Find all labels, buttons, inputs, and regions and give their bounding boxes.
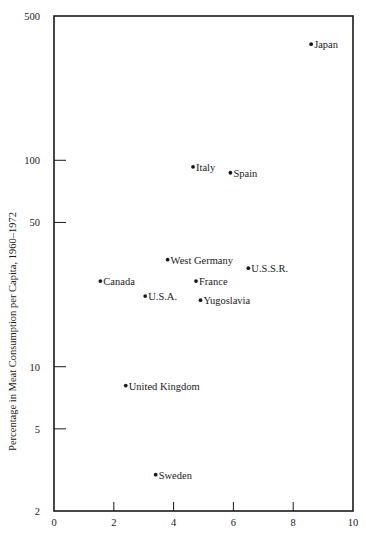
point-label: Sweden: [159, 470, 193, 481]
data-point: [191, 165, 195, 169]
x-tick-label: 2: [111, 517, 116, 528]
x-tick-label: 6: [231, 517, 236, 528]
data-point: [194, 279, 198, 283]
y-tick-label: 5: [35, 424, 40, 435]
point-label: U.S.A.: [148, 291, 177, 302]
point-label: West Germany: [171, 255, 234, 266]
point-label: Japan: [314, 39, 339, 50]
point-label: France: [199, 276, 228, 287]
x-tick-label: 4: [171, 517, 177, 528]
x-tick-label: 10: [348, 517, 359, 528]
point-label: Canada: [103, 276, 135, 287]
point-label: U.S.S.R.: [251, 263, 288, 274]
point-label: Yugoslavia: [204, 295, 251, 306]
scatter-plot: 0246810251050100500JapanItalySpainWest G…: [0, 0, 366, 536]
y-tick-label: 50: [30, 217, 41, 228]
data-point: [98, 279, 102, 283]
data-point: [309, 42, 313, 46]
data-point: [166, 258, 170, 262]
point-label: United Kingdom: [129, 381, 200, 392]
point-label: Spain: [233, 168, 258, 179]
y-tick-label: 100: [24, 155, 40, 166]
data-point: [143, 294, 147, 298]
y-axis-label: Percentage in Meat Consumption per Capit…: [7, 187, 18, 477]
point-label: Italy: [196, 162, 216, 173]
data-point: [199, 298, 203, 302]
y-tick-label: 500: [24, 11, 40, 22]
data-point: [229, 171, 233, 175]
data-point: [246, 266, 250, 270]
x-tick-label: 0: [51, 517, 56, 528]
x-tick-label: 8: [291, 517, 296, 528]
data-point: [154, 473, 158, 477]
data-point: [124, 384, 128, 388]
y-tick-label: 10: [30, 362, 41, 373]
y-tick-label: 2: [35, 506, 40, 517]
